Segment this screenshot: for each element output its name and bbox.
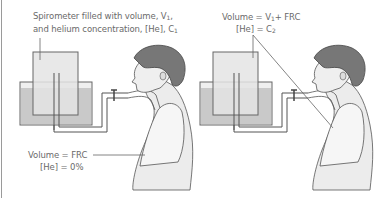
spirometer-bell-left <box>33 52 78 115</box>
label-spirometer-line2: and helium concentration, [He], C1 <box>33 24 178 36</box>
diagram-frame: Spirometer filled with volume, V1, and h… <box>0 0 389 198</box>
label-frc-volume: Volume = FRC <box>28 150 87 161</box>
lungs-right <box>320 103 364 166</box>
panel-after <box>200 35 373 190</box>
label-combined-volume: Volume = V1+ FRC <box>222 12 300 24</box>
lungs-left <box>140 103 184 166</box>
label-combined-helium: [He] = C2 <box>236 24 276 36</box>
label-frc-helium: [He] = 0% <box>40 162 83 173</box>
spirometer-bell-right <box>213 52 258 115</box>
label-spirometer-line1: Spirometer filled with volume, V1, <box>33 11 173 23</box>
